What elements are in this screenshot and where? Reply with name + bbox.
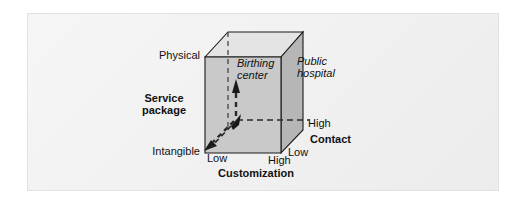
point-label-birthing-center-line2: center — [237, 69, 268, 81]
point-label-public-hospital: Public hospital — [297, 55, 351, 80]
axis-title-contact: Contact — [310, 134, 351, 146]
point-label-public-hospital-line2: hospital — [297, 67, 335, 79]
figure-root: Physical Intangible Service package Low … — [0, 0, 517, 206]
point-label-public-hospital-line1: Public — [297, 55, 327, 67]
axis-label-service-package-high: Physical — [130, 50, 200, 62]
axis-label-contact-high: High — [308, 118, 331, 130]
axis-label-service-package-low: Intangible — [120, 146, 200, 158]
point-label-birthing-center-line1: Birthing — [237, 57, 274, 69]
point-label-birthing-center: Birthing center — [237, 57, 297, 82]
axis-title-service-package-line2: package — [142, 104, 186, 116]
axis-title-service-package: Service package — [128, 93, 200, 117]
axis-label-contact-low: Low — [288, 147, 308, 159]
axis-title-service-package-line1: Service — [144, 92, 183, 104]
axis-title-customization: Customization — [205, 168, 307, 180]
axis-label-customization-low: Low — [207, 153, 227, 165]
